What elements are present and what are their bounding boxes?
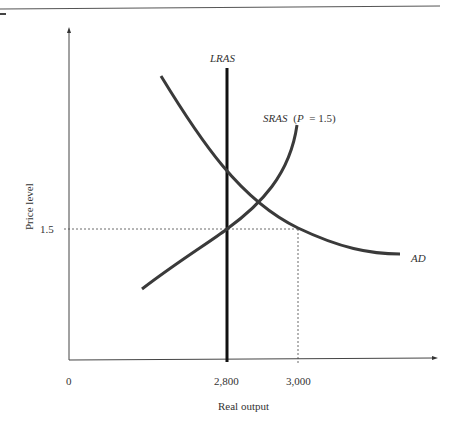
top-rule xyxy=(0,6,440,9)
sras-label-name: SRAS xyxy=(263,112,288,124)
lras-label: LRAS xyxy=(209,52,236,64)
x-tick-3000: 3,000 xyxy=(286,375,311,387)
x-axis xyxy=(69,358,434,360)
x-axis-label: Real output xyxy=(218,400,269,412)
ad-label: AD xyxy=(410,252,426,264)
corner-mark xyxy=(0,13,6,15)
y-axis-arrow-icon xyxy=(67,27,71,33)
x-tick-0: 0 xyxy=(66,375,72,387)
sras-label-rest: = 1.5) xyxy=(309,112,336,125)
sras-label-p: P xyxy=(296,112,304,124)
x-tick-2800: 2,800 xyxy=(214,375,239,387)
x-axis-arrow-icon xyxy=(432,356,438,360)
y-axis-label: Price level xyxy=(23,183,35,230)
ad-as-chart: LRAS SRAS (P = 1.5) AD 1.5 Price level 0… xyxy=(0,0,459,428)
ad-curve xyxy=(161,76,400,254)
sras-label: SRAS (P = 1.5) xyxy=(263,112,336,125)
sras-curve xyxy=(142,125,297,289)
y-tick-1-5: 1.5 xyxy=(40,223,54,235)
